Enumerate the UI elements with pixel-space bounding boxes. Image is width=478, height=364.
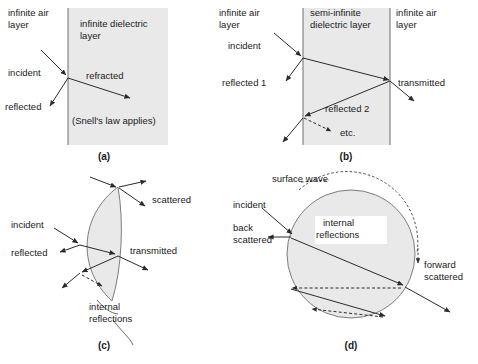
panel-b: infinite air layer semi-infinite dielect…: [219, 7, 445, 162]
panel-a-incident-ray: [41, 50, 66, 75]
panel-a-dielectric-label-line1: infinite dielectric: [80, 18, 148, 29]
panel-a-snell-note: (Snell's law applies): [72, 115, 156, 126]
panel-c-caption: (c): [98, 340, 110, 351]
panel-b-transmitted-label: transmitted: [398, 77, 445, 88]
figure-canvas: infinite air layer infinite dielectric l…: [0, 0, 478, 364]
panel-b-etc-label: etc.: [340, 127, 355, 138]
panel-a: infinite air layer infinite dielectric l…: [5, 7, 168, 162]
panel-b-left-air-label-line2: layer: [219, 19, 240, 30]
panel-c-particle-shape: [87, 187, 121, 301]
panel-d-back-scattered-label-line1: back: [233, 222, 253, 233]
panel-c-transmitted-label: transmitted: [130, 245, 177, 256]
panel-b-reflected1-label: reflected 1: [222, 77, 266, 88]
panel-a-caption: (a): [98, 151, 110, 162]
panel-d-particle-circle: [287, 190, 415, 318]
panel-d-surface-wave-label: surface wave: [272, 173, 328, 184]
panel-b-exit-left-ray: [283, 118, 303, 142]
panel-d-incident-ray: [262, 208, 292, 234]
panel-c-transmitted-ray: [118, 256, 148, 270]
panel-d-internal-label-line2: reflections: [316, 229, 360, 240]
panel-a-incident-label: incident: [8, 67, 41, 78]
panel-d: surface wave incident back scattered for…: [233, 172, 463, 351]
panel-c: scattered incident reflected transmitted…: [11, 177, 191, 351]
panel-c-reflected-ray: [60, 245, 80, 252]
panel-d-internal-label-line1: internal: [323, 217, 354, 228]
optics-scattering-diagram: infinite air layer infinite dielectric l…: [0, 0, 478, 364]
panel-c-scattered-ray-lower: [119, 188, 145, 206]
panel-b-incident-ray: [274, 33, 301, 56]
panel-d-caption: (d): [345, 340, 358, 351]
panel-b-right-air-label-line1: infinite air: [396, 7, 437, 18]
panel-b-incident-label: incident: [228, 40, 261, 51]
panel-a-reflected-label: reflected: [5, 101, 41, 112]
panel-b-slab-label-line1: semi-infinite: [310, 7, 361, 18]
panel-c-incident-ray: [54, 228, 78, 243]
panel-b-reflected1-ray: [286, 58, 303, 81]
panel-d-back-scattered-label-line2: scattered: [233, 234, 272, 245]
panel-a-air-label-line2: layer: [8, 19, 29, 30]
panel-c-reflected-label: reflected: [11, 247, 47, 258]
panel-c-scattered-label: scattered: [152, 194, 191, 205]
panel-b-slab-label-line2: dielectric layer: [310, 19, 371, 30]
panel-d-forward-label-line2: scattered: [424, 271, 463, 282]
panel-c-top-incoming-ray: [90, 177, 116, 187]
panel-c-internal-label-line1: internal: [89, 301, 120, 312]
panel-b-right-air-label-line2: layer: [396, 19, 417, 30]
panel-d-forward-label-line1: forward: [424, 259, 456, 270]
panel-c-scattered-ray-upper: [119, 181, 146, 187]
panel-a-dielectric-label-line2: layer: [80, 30, 101, 41]
panel-a-air-label-line1: infinite air: [8, 7, 49, 18]
panel-c-incident-label: incident: [11, 219, 44, 230]
panel-c-internal-label-line2: reflections: [89, 313, 133, 324]
panel-d-forward-scattered-ray: [405, 287, 450, 312]
panel-a-refracted-label: refracted: [86, 70, 124, 81]
panel-d-incident-label: incident: [233, 199, 266, 210]
panel-b-caption: (b): [340, 151, 353, 162]
panel-a-reflected-ray: [50, 78, 68, 106]
panel-c-exit-lower-left-ray: [62, 273, 80, 288]
panel-b-reflected2-label: reflected 2: [325, 103, 369, 114]
panel-b-left-air-label-line1: infinite air: [219, 7, 260, 18]
